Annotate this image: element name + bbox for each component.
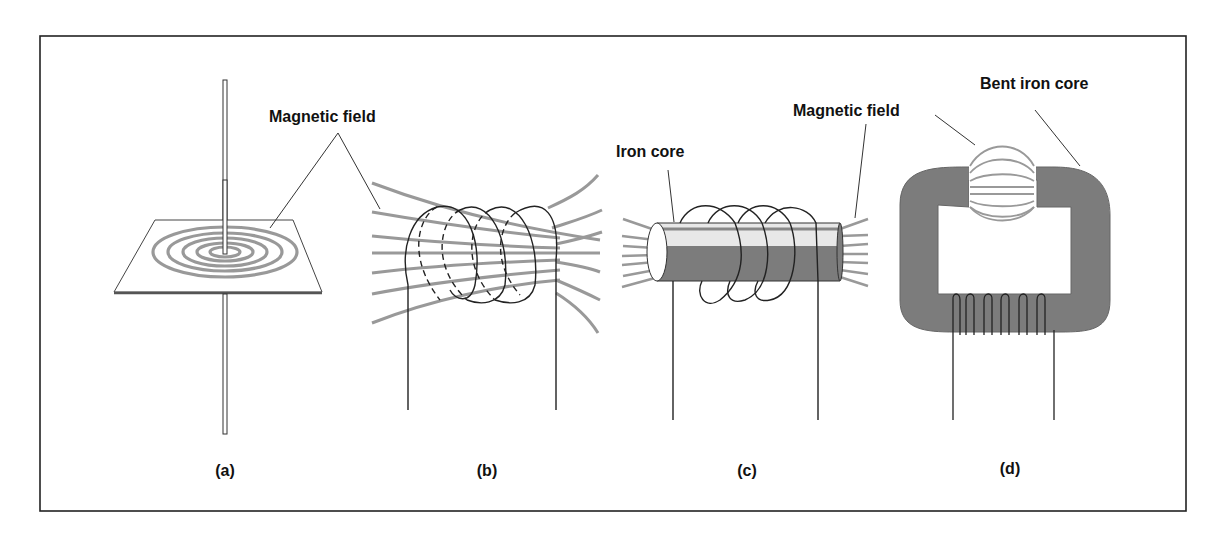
magnetic-field-label-a: Magnetic field [269, 108, 376, 126]
panel-a-label-leaders [270, 133, 380, 228]
panel-d-bent-core [900, 147, 1110, 421]
panel-a-wire-and-plane [114, 80, 322, 434]
electromagnet-figure: Magnetic field Iron core Magnetic field … [0, 0, 1216, 539]
panel-c-iron-core-coil [622, 206, 868, 420]
panel-d-label-leaders [935, 110, 1080, 166]
bent-iron-core-label: Bent iron core [980, 75, 1088, 93]
magnetic-field-label-c: Magnetic field [793, 102, 900, 120]
coil-turns [405, 206, 556, 410]
caption-c: (c) [737, 462, 757, 480]
caption-a: (a) [215, 462, 235, 480]
iron-core-label: Iron core [616, 143, 684, 161]
panel-b-air-coil [372, 175, 602, 410]
field-lines [372, 175, 602, 333]
caption-d: (d) [1000, 460, 1020, 478]
caption-b: (b) [477, 462, 497, 480]
